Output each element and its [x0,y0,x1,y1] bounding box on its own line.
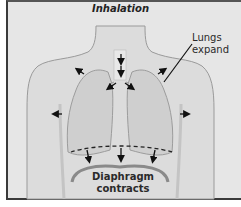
diaphragm-label-line1: Diaphragm [82,171,164,183]
lungs-label-line1: Lungs [192,32,229,44]
lungs-label-line2: expand [192,44,229,56]
diaphragm-label-line2: contracts [82,183,164,195]
figure-title: Inhalation [0,3,241,14]
diaphragm-contracts-label: Diaphragm contracts [82,171,164,195]
trachea [114,50,126,80]
lungs-expand-label: Lungs expand [192,32,229,56]
